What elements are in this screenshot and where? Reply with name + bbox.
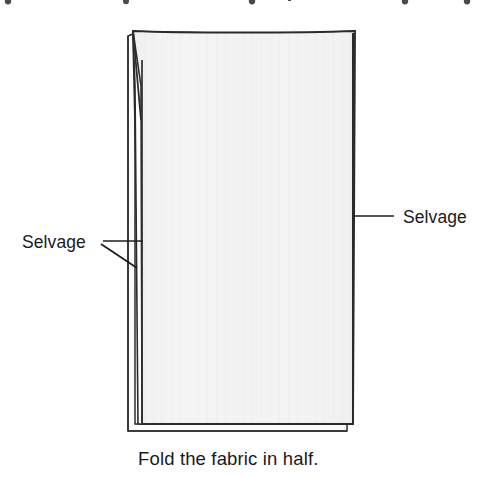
fabric-main-panel xyxy=(133,31,355,424)
figure-caption: Fold the fabric in half. xyxy=(138,448,318,469)
fabric-fold-illustration: Selvage Selvage Fold the fabric in half. xyxy=(0,0,498,477)
fabric-fill-shading xyxy=(133,31,355,424)
right-selvage-label: Selvage xyxy=(403,207,467,227)
left-selvage-label: Selvage xyxy=(22,232,86,252)
fabric-fold-figure: Selvage Selvage Fold the fabric in half. xyxy=(0,0,498,477)
